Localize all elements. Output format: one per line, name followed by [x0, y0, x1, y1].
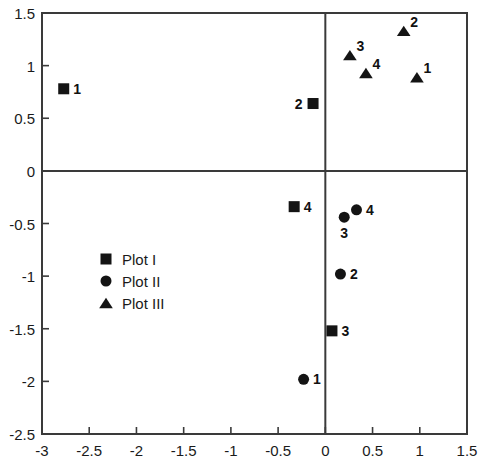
- y-axis-tick-label: 1: [27, 58, 35, 75]
- y-axis-tick-label: 0: [27, 163, 35, 180]
- square-marker: [326, 325, 337, 336]
- legend-item-label: Plot I: [122, 251, 156, 268]
- data-point-label: 3: [340, 225, 348, 241]
- data-point-label: 4: [304, 199, 312, 215]
- circle-legend-icon: [101, 276, 112, 287]
- legend-item: Plot I: [101, 251, 157, 268]
- square-marker: [58, 83, 69, 94]
- y-axis-tick-label: 1.5: [14, 5, 35, 22]
- x-axis-tick-label: 0: [321, 442, 329, 459]
- data-point-label: 1: [313, 371, 321, 387]
- x-axis-tick-label: -2.5: [76, 442, 102, 459]
- triangle-marker: [343, 50, 357, 60]
- series-3: 2341: [343, 14, 431, 83]
- square-marker: [289, 201, 300, 212]
- data-point-label: 3: [356, 38, 364, 54]
- data-point-label: 4: [372, 56, 380, 72]
- square-legend-icon: [101, 254, 112, 265]
- y-axis-tick-label: 0.5: [14, 110, 35, 127]
- circle-marker: [298, 374, 309, 385]
- circle-marker: [339, 212, 350, 223]
- series-1: 1243: [58, 81, 349, 339]
- data-point-label: 2: [410, 14, 418, 30]
- x-axis-tick-label: -3: [35, 442, 48, 459]
- series-2: 1234: [298, 202, 374, 387]
- triangle-marker: [410, 72, 424, 82]
- x-axis-tick-label: 0.5: [362, 442, 383, 459]
- square-marker: [308, 98, 319, 109]
- legend-item: Plot III: [99, 295, 164, 312]
- x-axis-tick-label: 1: [416, 442, 424, 459]
- triangle-marker: [397, 26, 411, 36]
- data-point-label: 1: [73, 81, 81, 97]
- axes-layer: -3-2.5-2-1.5-1-0.500.511.5-2.5-2-1.5-1-0…: [9, 5, 477, 459]
- legend-item-label: Plot II: [122, 273, 160, 290]
- y-axis-tick-label: -2: [22, 373, 35, 390]
- data-point-label: 3: [341, 323, 349, 339]
- data-point-label: 2: [295, 96, 303, 112]
- triangle-legend-icon: [99, 298, 113, 308]
- data-point-label: 2: [350, 266, 358, 282]
- data-point-label: 4: [366, 202, 374, 218]
- x-axis-tick-label: 1.5: [457, 442, 478, 459]
- x-axis-tick-label: -1.5: [171, 442, 197, 459]
- data-point-label: 1: [423, 60, 431, 76]
- y-axis-tick-label: -2.5: [9, 426, 35, 443]
- legend-item: Plot II: [101, 273, 161, 290]
- y-axis-tick-label: -1: [22, 268, 35, 285]
- y-axis-tick-label: -0.5: [9, 216, 35, 233]
- triangle-marker: [359, 68, 373, 78]
- legend: Plot IPlot IIPlot III: [99, 251, 164, 312]
- plot-frame: [42, 13, 467, 434]
- circle-marker: [351, 204, 362, 215]
- circle-marker: [335, 269, 346, 280]
- x-axis-tick-label: -2: [130, 442, 143, 459]
- x-axis-tick-label: -0.5: [265, 442, 291, 459]
- scatter-plot-figure: -3-2.5-2-1.5-1-0.500.511.5-2.5-2-1.5-1-0…: [0, 0, 481, 467]
- legend-item-label: Plot III: [122, 295, 165, 312]
- y-axis-tick-label: -1.5: [9, 321, 35, 338]
- x-axis-tick-label: -1: [224, 442, 237, 459]
- data-points-layer: 124312342341: [58, 14, 431, 387]
- plot-canvas: -3-2.5-2-1.5-1-0.500.511.5-2.5-2-1.5-1-0…: [0, 0, 481, 467]
